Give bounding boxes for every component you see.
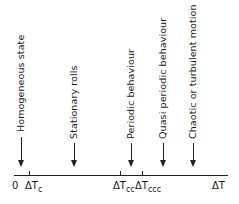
axis-label-delta-tccc: ΔTccc bbox=[135, 180, 161, 194]
axis-label-delta-tc: ΔTc bbox=[25, 180, 42, 194]
arrowhead-icon bbox=[128, 160, 134, 167]
delta-t-axis bbox=[14, 175, 228, 176]
arrowhead-icon bbox=[190, 160, 196, 167]
label-periodic-behaviour: Periodic behaviour bbox=[125, 49, 136, 139]
arrowhead-icon bbox=[160, 160, 166, 167]
label-homogeneous-state: Homogeneous state bbox=[15, 35, 26, 132]
label-stationary-rolls: Stationary rolls bbox=[68, 66, 79, 139]
label-chaotic-turbulent-motion: Chaotic or turbulent motion bbox=[187, 4, 198, 139]
tick-delta-tc bbox=[29, 171, 30, 175]
tick-delta-tccc bbox=[142, 171, 143, 175]
axis-origin-label: 0 bbox=[12, 180, 18, 191]
label-quasi-periodic-behaviour: Quasi periodic behaviour bbox=[157, 18, 168, 139]
arrowhead-icon bbox=[18, 160, 24, 167]
axis-label-delta-tcc: ΔTcc bbox=[113, 180, 135, 194]
arrowhead-icon bbox=[71, 160, 77, 167]
arrow-homogeneous-state bbox=[21, 137, 22, 162]
axis-end-label: ΔT bbox=[212, 180, 225, 191]
tick-delta-tcc bbox=[120, 171, 121, 175]
